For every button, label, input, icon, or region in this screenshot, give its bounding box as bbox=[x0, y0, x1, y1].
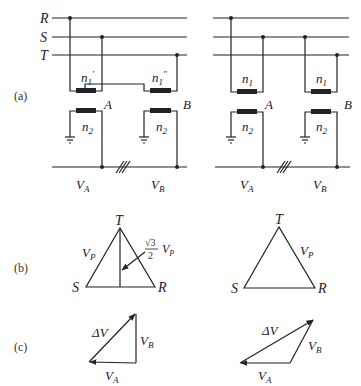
label-node-b-right: B bbox=[344, 97, 352, 112]
left-circuit bbox=[52, 18, 187, 173]
label-n1-a-right: n1 bbox=[242, 71, 253, 88]
phasor-right-va: VA bbox=[258, 368, 272, 385]
tri-left-top: T bbox=[115, 213, 124, 228]
label-n1-b-right: n1 bbox=[316, 71, 327, 88]
panel-label-b: (b) bbox=[14, 261, 28, 275]
coil-primary-b-right bbox=[311, 89, 331, 94]
label-n2-a-left: n2 bbox=[82, 119, 94, 136]
coil-secondary-a-left bbox=[76, 108, 96, 113]
label-n1-double-prime: n1" bbox=[152, 69, 167, 87]
right-circuit bbox=[213, 18, 350, 173]
tri-right-top: T bbox=[275, 212, 284, 227]
phasor-right-dv: ΔV bbox=[261, 323, 280, 338]
coil-primary-a-right bbox=[237, 89, 257, 94]
coil-secondary-a-right bbox=[237, 109, 257, 114]
tri-right-side-vp: VP bbox=[300, 243, 314, 260]
label-n2-b-left: n2 bbox=[156, 119, 168, 136]
coil-secondary-b-right bbox=[311, 109, 331, 114]
label-vb-left: VB bbox=[151, 177, 165, 194]
left-coils bbox=[68, 16, 179, 169]
phase-label-r: R bbox=[39, 11, 49, 26]
label-va-right: VA bbox=[240, 177, 254, 194]
label-n2-a-right: n2 bbox=[242, 119, 254, 136]
label-vb-right: VB bbox=[313, 177, 327, 194]
phasor-right-vb: VB bbox=[308, 338, 322, 355]
phasor-left-vb: VB bbox=[140, 333, 154, 350]
height-denominator: 2 bbox=[148, 250, 153, 261]
label-node-a-right: A bbox=[264, 97, 273, 112]
coil-primary-a-left bbox=[76, 88, 96, 93]
tri-left-r: R bbox=[157, 280, 167, 295]
right-coils bbox=[229, 16, 339, 169]
label-n2-b-right: n2 bbox=[316, 119, 328, 136]
label-va-left: VA bbox=[76, 177, 90, 194]
coil-secondary-b-left bbox=[150, 108, 171, 113]
tri-right-r: R bbox=[317, 281, 327, 296]
panel-label-a: (a) bbox=[14, 89, 27, 103]
label-node-a-left: A bbox=[103, 97, 112, 112]
tri-left-side-vp: VP bbox=[82, 245, 96, 262]
tri-left-s: S bbox=[72, 280, 79, 295]
height-numerator: √3 bbox=[145, 237, 156, 248]
phase-label-t: T bbox=[40, 48, 49, 63]
transformer-connection-diagram: (a) (b) (c) R S T bbox=[0, 0, 361, 386]
phasor-left-dv: ΔV bbox=[91, 325, 110, 340]
coil-primary-b-left bbox=[150, 88, 171, 93]
phase-label-s: S bbox=[40, 30, 47, 45]
label-node-b-left: B bbox=[183, 97, 191, 112]
height-vp: VP bbox=[162, 242, 174, 258]
phasor-left-va: VA bbox=[105, 368, 119, 385]
panel-label-c: (c) bbox=[14, 340, 27, 354]
tri-right-s: S bbox=[231, 281, 238, 296]
